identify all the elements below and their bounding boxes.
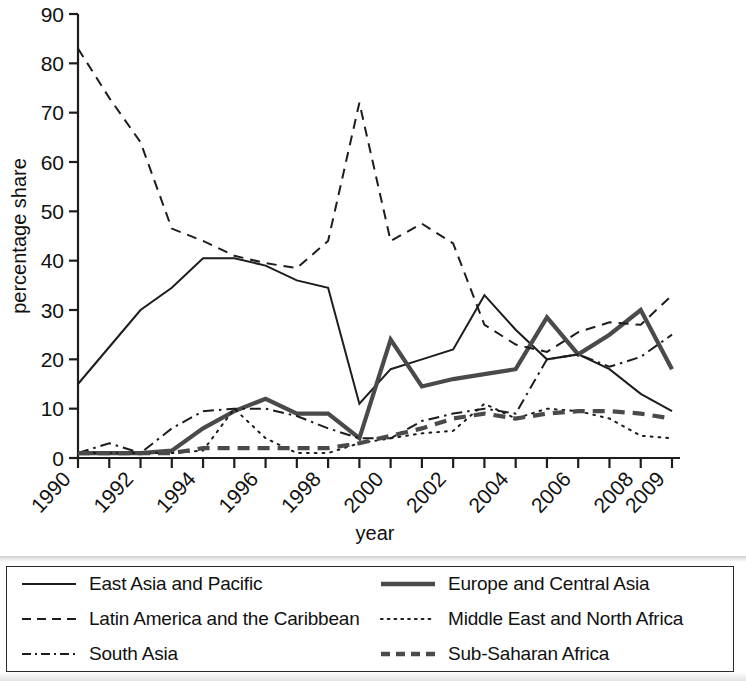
x-tick-label: 2006 xyxy=(526,467,575,517)
series-line-2 xyxy=(78,49,672,352)
thick-dashed-line-icon xyxy=(380,647,436,661)
legend-item-latin-america-and-the-caribbean: Latin America and the Caribbean xyxy=(7,608,370,630)
solid-line-icon xyxy=(21,577,77,591)
legend-item-europe-and-central-asia: Europe and Central Asia xyxy=(370,573,733,595)
x-tick-label: 1996 xyxy=(214,467,263,517)
dashed-line-icon xyxy=(21,612,77,626)
dotted-line-icon xyxy=(380,612,436,626)
y-tick-label: 70 xyxy=(41,101,64,124)
x-tick-label: 1998 xyxy=(276,467,325,517)
y-tick-label: 10 xyxy=(41,397,64,420)
legend-label: South Asia xyxy=(89,643,178,665)
y-tick-label: 0 xyxy=(52,447,64,470)
legend-label: Sub-Saharan Africa xyxy=(448,643,609,665)
panel-divider xyxy=(0,556,746,562)
y-tick-label: 80 xyxy=(41,52,64,75)
x-tick-label: 2000 xyxy=(339,467,388,517)
x-tick-label: 1994 xyxy=(151,467,200,517)
dash-dot-line-icon xyxy=(21,647,77,661)
y-tick-label: 30 xyxy=(41,299,64,322)
chart-canvas: 0102030405060708090199019921994199619982… xyxy=(0,0,746,556)
y-axis-label: percentage share xyxy=(8,158,30,314)
legend-label: Middle East and North Africa xyxy=(448,608,683,630)
legend-item-east-asia-and-pacific: East Asia and Pacific xyxy=(7,573,370,595)
legend-label: Europe and Central Asia xyxy=(448,573,649,595)
y-tick-label: 60 xyxy=(41,151,64,174)
legend-label: East Asia and Pacific xyxy=(89,573,262,595)
x-tick-label: 1992 xyxy=(89,467,138,517)
x-tick-label: 1990 xyxy=(26,467,75,517)
y-tick-label: 90 xyxy=(41,3,64,26)
x-tick-label: 2004 xyxy=(464,467,513,517)
y-tick-label: 40 xyxy=(41,249,64,272)
legend-label: Latin America and the Caribbean xyxy=(89,608,360,630)
chart-page: 0102030405060708090199019921994199619982… xyxy=(0,0,746,681)
chart-legend: East Asia and Pacific Europe and Central… xyxy=(6,566,734,672)
legend-item-sub-saharan-africa: Sub-Saharan Africa xyxy=(370,643,733,665)
y-tick-label: 50 xyxy=(41,200,64,223)
x-axis-label: year xyxy=(356,522,395,544)
x-tick-label: 2002 xyxy=(401,467,450,517)
legend-item-middle-east-and-north-africa: Middle East and North Africa xyxy=(370,608,733,630)
line-chart: 0102030405060708090199019921994199619982… xyxy=(0,0,746,556)
legend-item-south-asia: South Asia xyxy=(7,643,370,665)
page-bottom-edge xyxy=(0,672,746,681)
y-tick-label: 20 xyxy=(41,348,64,371)
thick-solid-line-icon xyxy=(380,577,436,591)
